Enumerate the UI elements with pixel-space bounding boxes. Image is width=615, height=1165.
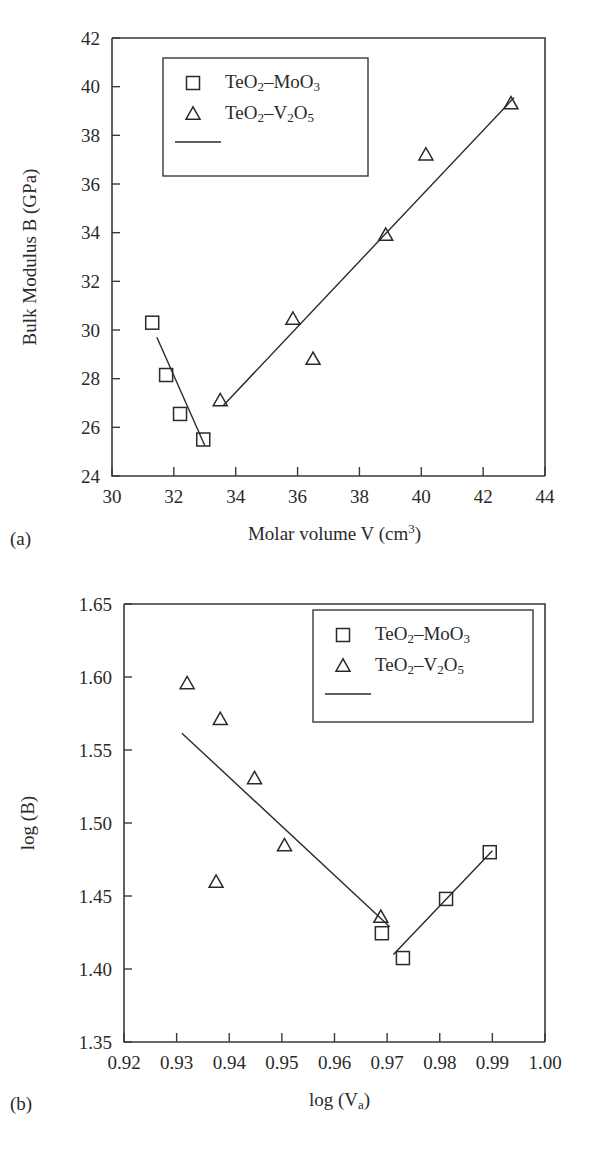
- y-tick-label: 30: [81, 320, 100, 341]
- y-tick-label: 34: [81, 222, 101, 243]
- y-tick-label: 1.55: [79, 740, 112, 761]
- y-axis-title-a: Bulk Modulus B (GPa): [19, 169, 41, 346]
- fit-line: [157, 337, 205, 445]
- y-tick-label: 1.50: [79, 813, 112, 834]
- data-point-triangle: [419, 148, 433, 160]
- x-axis-ticks: 0.920.930.940.950.960.970.980.991.00: [107, 1033, 561, 1073]
- series-squares: [146, 316, 210, 446]
- y-tick-label: 1.45: [79, 886, 112, 907]
- data-point-triangle: [209, 875, 223, 887]
- chart-panel-b: 1.351.401.451.501.551.601.650.920.930.94…: [0, 570, 615, 1165]
- legend-label-moo3: TeO2–MoO3: [375, 623, 470, 646]
- x-tick-label: 30: [103, 486, 122, 507]
- data-point-square: [174, 407, 187, 420]
- data-point-square: [197, 433, 210, 446]
- y-tick-label: 1.35: [79, 1032, 112, 1053]
- y-tick-label: 1.65: [79, 594, 112, 615]
- y-tick-label: 42: [81, 28, 100, 49]
- panel-a-svg: 242628303234363840423032343638404244Bulk…: [0, 0, 615, 580]
- data-point-square: [375, 927, 388, 940]
- x-tick-label: 38: [350, 486, 369, 507]
- x-tick-label: 44: [536, 486, 556, 507]
- x-tick-label: 0.99: [476, 1052, 509, 1073]
- y-tick-label: 1.40: [79, 959, 112, 980]
- data-point-square: [396, 952, 409, 965]
- legend: TeO2–MoO3TeO2–V2O5: [163, 58, 368, 176]
- y-tick-label: 28: [81, 368, 100, 389]
- legend: TeO2–MoO3TeO2–V2O5: [313, 610, 533, 722]
- x-tick-label: 0.98: [423, 1052, 456, 1073]
- x-tick-label: 0.93: [160, 1052, 193, 1073]
- fit-line: [182, 733, 390, 926]
- legend-label-v2o5: TeO2–V2O5: [375, 654, 464, 677]
- data-point-triangle: [374, 910, 388, 922]
- x-tick-label: 42: [474, 486, 493, 507]
- x-tick-label: 36: [288, 486, 307, 507]
- panel-b-svg: 1.351.401.451.501.551.601.650.920.930.94…: [0, 570, 615, 1165]
- data-point-square: [160, 369, 173, 382]
- x-axis-title-b: log (Va): [309, 1089, 370, 1112]
- x-tick-label: 40: [412, 486, 431, 507]
- y-tick-label: 26: [81, 417, 100, 438]
- figure-root: 242628303234363840423032343638404244Bulk…: [0, 0, 615, 1165]
- x-tick-label: 34: [226, 486, 246, 507]
- x-tick-label: 0.96: [318, 1052, 351, 1073]
- data-point-triangle: [278, 838, 292, 850]
- legend-label-v2o5: TeO2–V2O5: [225, 102, 314, 125]
- fit-line: [393, 851, 492, 955]
- x-axis-title-a: Molar volume V (cm3): [248, 521, 421, 546]
- y-axis-title-b: log (B): [17, 796, 39, 850]
- legend-label-moo3: TeO2–MoO3: [225, 71, 320, 94]
- series-squares: [375, 846, 496, 965]
- chart-panel-a: 242628303234363840423032343638404244Bulk…: [0, 0, 615, 580]
- data-point-triangle: [286, 312, 300, 324]
- x-tick-label: 32: [164, 486, 183, 507]
- data-point-triangle: [180, 676, 194, 688]
- y-tick-label: 40: [81, 76, 100, 97]
- fit-lines: [182, 733, 492, 954]
- y-tick-label: 32: [81, 271, 100, 292]
- x-axis-ticks: 3032343638404244: [103, 467, 556, 507]
- x-tick-label: 0.94: [213, 1052, 247, 1073]
- x-tick-label: 1.00: [528, 1052, 561, 1073]
- data-point-square: [483, 846, 496, 859]
- panel-label-b: (b): [10, 1093, 32, 1115]
- x-tick-label: 0.92: [107, 1052, 140, 1073]
- data-point-triangle: [248, 771, 262, 783]
- y-tick-label: 24: [81, 466, 101, 487]
- data-point-triangle: [306, 352, 320, 364]
- y-axis-ticks: 24262830323436384042: [81, 28, 120, 487]
- y-tick-label: 36: [81, 174, 100, 195]
- y-tick-label: 38: [81, 125, 100, 146]
- data-point-triangle: [213, 712, 227, 724]
- panel-label-a: (a): [10, 528, 31, 550]
- x-tick-label: 0.95: [265, 1052, 298, 1073]
- y-tick-label: 1.60: [79, 667, 112, 688]
- data-point-square: [146, 316, 159, 329]
- x-tick-label: 0.97: [371, 1052, 404, 1073]
